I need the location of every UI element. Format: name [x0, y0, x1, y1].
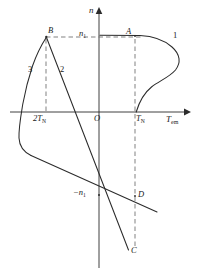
x-axis-arrow [184, 109, 191, 116]
plot-svg [0, 0, 200, 272]
tick-label-n1: n1 [79, 29, 86, 38]
y-axis-arrow [96, 7, 103, 14]
tick-label-2tn: 2TN [33, 114, 46, 123]
curve-label-1: 1 [173, 31, 177, 40]
y-axis-label: n [89, 6, 94, 15]
figure-canvas: n Tem O n1 −n1 2TN TN A B C D 1 [0, 0, 200, 272]
axis-group [10, 7, 191, 268]
curve-label-3: 3 [28, 65, 32, 74]
point-label-d: D [138, 190, 144, 199]
operating-points [45, 35, 136, 197]
marker-a [134, 35, 136, 37]
curve-3-tail-path [31, 156, 157, 213]
marker-minus-n1 [98, 194, 100, 196]
marker-b [45, 36, 47, 38]
point-label-b: B [48, 26, 53, 35]
point-label-c: C [131, 246, 137, 255]
point-label-a: A [126, 27, 131, 36]
line-2-path [46, 37, 128, 250]
marker-d [134, 195, 136, 197]
origin-label: O [94, 114, 100, 123]
curve-3-path [19, 37, 47, 156]
x-axis-label: Tem [166, 115, 178, 124]
curve-1-path [100, 35, 179, 112]
curve-label-2: 2 [60, 65, 64, 74]
tick-label-tn: TN [136, 114, 145, 123]
tick-label-minus-n1: −n1 [73, 188, 86, 197]
